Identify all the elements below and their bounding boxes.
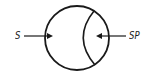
- label-sp: SP: [129, 31, 140, 41]
- diagram: S SP: [0, 0, 157, 80]
- inner-arc: [83, 11, 95, 65]
- outer-circle: [45, 6, 109, 70]
- arrow-s: [24, 33, 53, 39]
- label-s: S: [15, 31, 20, 41]
- arrow-sp: [96, 33, 126, 39]
